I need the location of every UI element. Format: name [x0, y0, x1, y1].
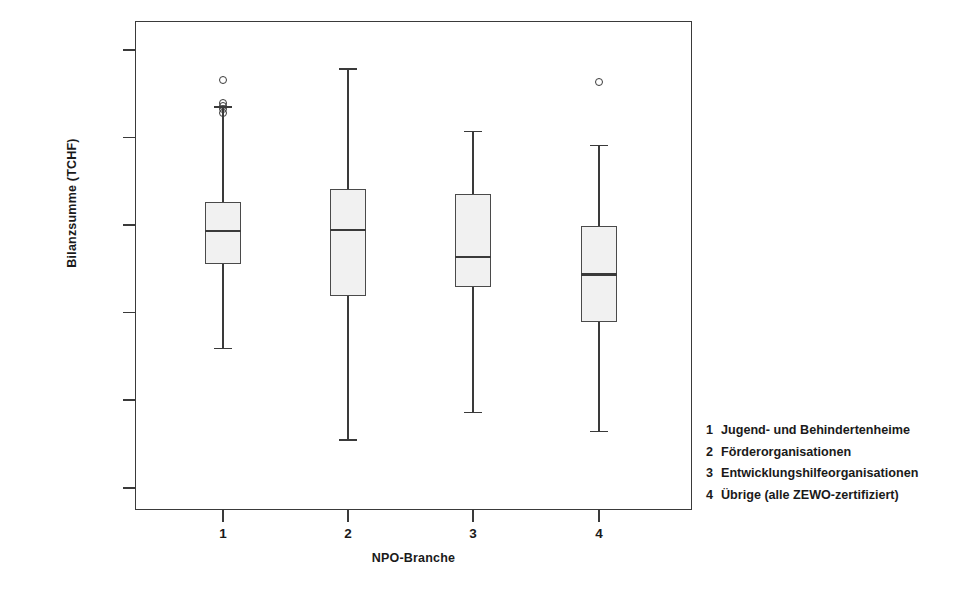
legend-label: Förderorganisationen	[721, 442, 851, 464]
legend-item-1: 1Jugend- und Behindertenheime	[706, 420, 918, 442]
y-tick-mark	[123, 137, 135, 139]
y-tick-mark	[123, 49, 135, 51]
legend-item-4: 4Übrige (alle ZEWO-zertifiziert)	[706, 485, 918, 507]
whisker-lower	[598, 322, 599, 431]
legend-item-3: 3Entwicklungshilfeorganisationen	[706, 463, 918, 485]
y-tick-mark	[123, 312, 135, 314]
whisker-cap-upper	[339, 68, 357, 70]
legend-key: 4	[706, 485, 721, 507]
y-tick-mark	[123, 399, 135, 401]
y-tick-mark	[123, 487, 135, 489]
legend-label: Jugend- und Behindertenheime	[721, 420, 910, 442]
y-tick-mark	[123, 224, 135, 226]
x-tick-label: 2	[318, 526, 378, 541]
whisker-upper	[472, 131, 473, 195]
whisker-lower	[472, 287, 473, 411]
whisker-cap-upper	[590, 145, 608, 147]
x-tick-mark	[472, 510, 474, 522]
boxplot-figure: Bilanzsumme (TCHF) NPO-Branche 1 000 000…	[0, 0, 955, 593]
whisker-cap-lower	[339, 439, 357, 441]
x-tick-label: 1	[193, 526, 253, 541]
x-tick-mark	[222, 510, 224, 522]
box-iqr	[205, 202, 241, 264]
whisker-lower	[347, 296, 348, 439]
y-axis-title: Bilanzsumme (TCHF)	[65, 123, 79, 283]
whisker-cap-upper	[464, 131, 482, 133]
median-line	[330, 229, 366, 231]
whisker-cap-lower	[464, 412, 482, 414]
whisker-upper	[222, 106, 223, 202]
x-axis-title: NPO-Branche	[135, 551, 692, 565]
legend-item-2: 2Förderorganisationen	[706, 442, 918, 464]
whisker-upper	[347, 68, 348, 189]
legend-key: 3	[706, 463, 721, 485]
whisker-lower	[222, 264, 223, 348]
whisker-cap-lower	[214, 348, 232, 350]
legend: 1Jugend- und Behindertenheime2Förderorga…	[706, 420, 918, 506]
legend-label: Entwicklungshilfeorganisationen	[721, 463, 918, 485]
x-tick-label: 4	[569, 526, 629, 541]
x-tick-mark	[598, 510, 600, 522]
whisker-upper	[598, 145, 599, 227]
box-iqr	[330, 189, 366, 296]
x-tick-label: 3	[443, 526, 503, 541]
median-line	[205, 230, 241, 232]
median-line	[581, 273, 617, 275]
x-tick-mark	[347, 510, 349, 522]
legend-key: 2	[706, 442, 721, 464]
median-line	[455, 256, 491, 258]
legend-key: 1	[706, 420, 721, 442]
whisker-cap-lower	[590, 431, 608, 433]
legend-label: Übrige (alle ZEWO-zertifiziert)	[721, 485, 899, 507]
box-iqr	[455, 194, 491, 287]
